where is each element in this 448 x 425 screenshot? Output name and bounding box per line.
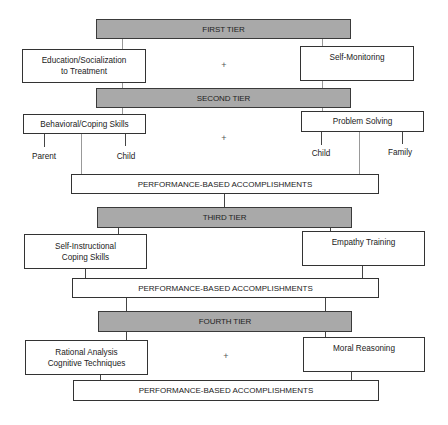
plus-connector: + (221, 351, 231, 361)
rational-analysis-box: Rational Analysis Cognitive Techniques (25, 340, 148, 375)
third-tier-label: THIRD TIER (203, 213, 247, 222)
branch-line (402, 132, 403, 144)
branch-line (44, 134, 45, 147)
self-instructional-box: Self-Instructional Coping Skills (24, 234, 147, 269)
fourth-tier-bar: FOURTH TIER (98, 311, 352, 332)
second-tier-bar: SECOND TIER (96, 88, 351, 108)
branch-line (321, 132, 322, 145)
connector-line (325, 298, 326, 312)
box-text: Behavioral/Coping Skills (40, 119, 128, 130)
box-text-line: Rational Analysis (48, 347, 126, 358)
box-text: Moral Reasoning (333, 343, 395, 354)
box-text: PERFORMANCE-BASED ACCOMPLISHMENTS (139, 386, 314, 395)
fourth-tier-label: FOURTH TIER (199, 317, 251, 326)
first-tier-bar: FIRST TIER (96, 19, 351, 39)
performance-accomplishments-box-2: PERFORMANCE-BASED ACCOMPLISHMENTS (72, 278, 379, 298)
connector-line (359, 132, 360, 174)
parent-label: Parent (24, 152, 64, 161)
first-tier-label: FIRST TIER (202, 25, 244, 34)
child-label: Child (301, 149, 341, 158)
family-label: Family (380, 148, 420, 157)
problem-solving-box: Problem Solving (301, 111, 424, 132)
plus-connector: + (219, 133, 229, 143)
behavioral-coping-skills-box: Behavioral/Coping Skills (23, 114, 146, 134)
box-text-line: Cognitive Techniques (48, 358, 126, 369)
connector-line (126, 298, 127, 312)
child-label: Child (106, 152, 146, 161)
performance-accomplishments-box-1: PERFORMANCE-BASED ACCOMPLISHMENTS (71, 174, 379, 194)
plus-connector: + (219, 60, 229, 70)
box-text: Empathy Training (332, 237, 396, 248)
empathy-training-box: Empathy Training (302, 231, 425, 266)
performance-accomplishments-box-3: PERFORMANCE-BASED ACCOMPLISHMENTS (73, 380, 379, 401)
box-text-line: Education/Socialization (42, 55, 127, 66)
box-text: Problem Solving (333, 116, 393, 127)
box-text: Self-Monitoring (329, 52, 384, 63)
box-text-line: to Treatment (42, 66, 127, 77)
connector-line (81, 134, 82, 175)
connector-line (224, 194, 225, 208)
box-text-line: Coping Skills (55, 252, 116, 263)
third-tier-bar: THIRD TIER (97, 207, 352, 228)
box-text: PERFORMANCE-BASED ACCOMPLISHMENTS (138, 284, 313, 293)
branch-line (125, 134, 126, 146)
self-monitoring-box: Self-Monitoring (300, 46, 414, 81)
second-tier-label: SECOND TIER (197, 94, 250, 103)
box-text-line: Self-Instructional (55, 241, 116, 252)
education-socialization-box: Education/Socialization to Treatment (22, 49, 146, 83)
moral-reasoning-box: Moral Reasoning (303, 337, 425, 372)
box-text: PERFORMANCE-BASED ACCOMPLISHMENTS (138, 180, 313, 189)
